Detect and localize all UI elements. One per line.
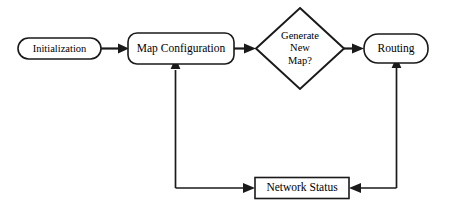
arrow-head-icon — [244, 44, 256, 54]
node-label-map-configuration: Map Configuration — [137, 42, 226, 55]
node-label-generate: Generate — [281, 30, 319, 41]
node-label-network-status: Network Status — [266, 181, 338, 193]
edge-netstatus-to-mapcfg — [171, 58, 255, 193]
arrow-head-icon — [243, 183, 255, 193]
node-generate-new-map[interactable]: Generate New Map? — [256, 8, 344, 89]
node-map-configuration[interactable]: Map Configuration — [128, 33, 234, 64]
node-label-initialization: Initialization — [33, 43, 87, 54]
edge-diamond-to-routing — [344, 44, 364, 54]
edge-routing-to-netstatus — [349, 64, 397, 193]
node-network-status[interactable]: Network Status — [255, 178, 349, 199]
arrow-head-icon — [352, 44, 364, 54]
edge-mapcfg-to-diamond — [234, 44, 256, 54]
node-initialization[interactable]: Initialization — [18, 38, 101, 59]
flowchart-diagram: Initialization Map Configuration Generat… — [0, 0, 449, 209]
node-label-routing: Routing — [377, 42, 414, 55]
edge-init-to-mapcfg — [101, 44, 129, 54]
flowchart-canvas: Initialization Map Configuration Generat… — [0, 0, 449, 209]
node-label-map-question: Map? — [288, 55, 312, 66]
arrow-head-icon — [349, 183, 361, 193]
node-routing[interactable]: Routing — [364, 34, 428, 63]
node-label-new: New — [290, 42, 310, 53]
